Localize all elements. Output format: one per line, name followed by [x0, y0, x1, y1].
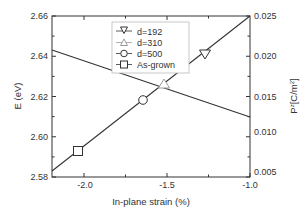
x-tick-label: -1.0	[242, 180, 258, 190]
y-axis-title: E (eV)	[12, 83, 23, 110]
y-tick-label: 2.62	[30, 92, 48, 102]
legend-label: d=192	[137, 27, 162, 37]
y2-tick-labels: 0.005 0.010 0.015 0.020 0.025	[254, 11, 277, 177]
legend-square-icon	[121, 61, 128, 68]
legend-label: d=500	[137, 49, 162, 59]
x-tick-labels: -2.0 -1.5 -1.0	[77, 180, 258, 190]
y2-axis-title: Pz[C/m2]	[288, 78, 299, 113]
legend: d=192 d=310 d=500 As-grown	[112, 22, 189, 73]
y-tick-labels: 2.58 2.60 2.62 2.64 2.66	[30, 11, 48, 182]
marker-d500	[139, 96, 148, 105]
x-axis-title: In-plane strain (%)	[112, 196, 190, 207]
marker-as-grown	[74, 147, 83, 156]
y-tick-label: 2.64	[30, 51, 48, 61]
y2-tick-label: 0.015	[254, 92, 277, 102]
y2-tick-label: 0.025	[254, 11, 277, 21]
y-axis-ticks	[52, 16, 56, 177]
legend-circle-icon	[121, 50, 128, 57]
legend-label: As-grown	[137, 60, 175, 70]
y2-axis-ticks	[246, 16, 250, 177]
y2-tick-label: 0.010	[254, 127, 277, 137]
legend-label: d=310	[137, 38, 162, 48]
x-tick-label: -1.5	[159, 180, 175, 190]
y2-tick-label: 0.005	[254, 167, 277, 177]
y-tick-label: 2.66	[30, 11, 48, 21]
y2-tick-label: 0.020	[254, 51, 277, 61]
y-tick-label: 2.58	[30, 172, 48, 182]
y-tick-label: 2.60	[30, 132, 48, 142]
chart: 2.58 2.60 2.62 2.64 2.66 0.005 0.010 0.0…	[0, 0, 306, 213]
x-tick-label: -2.0	[77, 180, 93, 190]
